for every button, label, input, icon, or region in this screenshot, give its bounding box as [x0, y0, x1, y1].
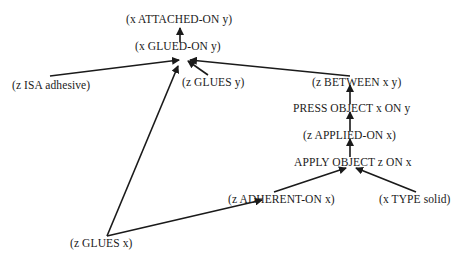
- node-isa-adhesive: (z ISA adhesive): [12, 79, 90, 92]
- node-adherent-on: (z ADHERENT-ON x): [228, 193, 335, 206]
- node-between: (z BETWEEN x y): [312, 76, 401, 89]
- edge-between-to-glued-on: [190, 60, 350, 76]
- node-press-object: PRESS OBJECT x ON y: [293, 102, 410, 115]
- edge-layer: [0, 0, 468, 262]
- node-applied-on: (z APPLIED-ON x): [303, 129, 396, 142]
- node-apply-object: APPLY OBJECT z ON x: [294, 156, 412, 169]
- edge-isa-adhesive-to-glued-on: [50, 60, 179, 76]
- node-type-solid: (x TYPE solid): [379, 193, 450, 206]
- edge-glues-y-to-glued-on: [188, 61, 208, 75]
- node-glues-x: (z GLUES x): [70, 237, 132, 250]
- node-glues-y: (z GLUES y): [182, 76, 244, 89]
- edge-adherent-on-to-apply-object: [274, 168, 346, 192]
- node-attached-on: (x ATTACHED-ON y): [126, 13, 232, 26]
- inference-diagram: (x ATTACHED-ON y) (x GLUED-ON y) (z ISA …: [0, 0, 468, 262]
- node-glued-on: (x GLUED-ON y): [135, 40, 221, 53]
- edge-type-solid-to-apply-object: [356, 168, 416, 192]
- edge-glues-x-to-glued-on: [107, 66, 178, 236]
